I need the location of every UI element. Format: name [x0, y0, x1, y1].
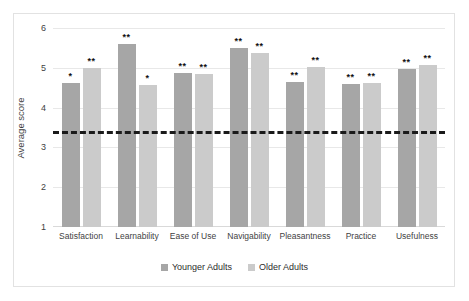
y-axis-tick-label: 6: [41, 24, 46, 33]
x-axis-tick-label: Navigability: [227, 231, 270, 241]
bar-group: ****: [333, 28, 389, 227]
significance-marker: **: [367, 72, 375, 81]
bar[interactable]: [174, 73, 192, 227]
y-axis-tick-label: 1: [41, 223, 46, 232]
bar-younger[interactable]: *: [62, 28, 80, 227]
legend-item[interactable]: Younger Adults: [161, 262, 232, 272]
significance-marker: **: [178, 62, 186, 71]
x-axis-labels: SatisfactionLearnabilityEase of UseNavig…: [53, 231, 445, 249]
bar-group: ***: [53, 28, 109, 227]
bar[interactable]: [419, 65, 437, 227]
y-axis-tick-label: 5: [41, 63, 46, 72]
y-axis-title: Average score: [15, 97, 26, 158]
bar-older[interactable]: **: [419, 28, 437, 227]
legend-label: Younger Adults: [172, 262, 232, 272]
significance-marker: *: [145, 74, 149, 83]
bar[interactable]: [342, 84, 360, 227]
bar-younger[interactable]: **: [398, 28, 416, 227]
significance-marker: **: [423, 54, 431, 63]
significance-marker: **: [346, 73, 354, 82]
bar-older[interactable]: **: [83, 28, 101, 227]
bar-younger[interactable]: **: [230, 28, 248, 227]
bar-younger[interactable]: **: [286, 28, 304, 227]
reference-threshold-line: [53, 131, 445, 134]
bar[interactable]: [398, 69, 416, 227]
bar-group: ****: [389, 28, 445, 227]
significance-marker: **: [290, 71, 298, 80]
bar-older[interactable]: **: [195, 28, 213, 227]
bar[interactable]: [118, 44, 136, 227]
chart-legend: Younger AdultsOlder Adults: [0, 262, 469, 272]
bar-group: ****: [165, 28, 221, 227]
bar-younger[interactable]: **: [174, 28, 192, 227]
legend-swatch-icon: [161, 264, 168, 271]
bar[interactable]: [195, 74, 213, 227]
x-axis-tick-label: Satisfaction: [59, 231, 103, 241]
legend-label: Older Adults: [259, 262, 308, 272]
significance-marker: **: [199, 63, 207, 72]
significance-marker: **: [234, 37, 242, 46]
x-axis-tick-label: Usefulness: [396, 231, 438, 241]
significance-marker: **: [402, 58, 410, 67]
significance-marker: **: [87, 57, 95, 66]
bar-older[interactable]: **: [251, 28, 269, 227]
significance-marker: *: [68, 72, 72, 81]
bar[interactable]: [62, 83, 80, 227]
bar-younger[interactable]: **: [118, 28, 136, 227]
bar-group: ****: [277, 28, 333, 227]
x-axis-tick-label: Ease of Use: [170, 231, 216, 241]
bar-older[interactable]: **: [307, 28, 325, 227]
bar-group: ***: [109, 28, 165, 227]
legend-item[interactable]: Older Adults: [248, 262, 308, 272]
bar[interactable]: [230, 48, 248, 227]
bar[interactable]: [307, 67, 325, 227]
bar-chart: Average score 123456********************…: [0, 0, 469, 301]
bar-older[interactable]: *: [139, 28, 157, 227]
bar[interactable]: [286, 82, 304, 227]
bar-younger[interactable]: **: [342, 28, 360, 227]
y-axis-tick-label: 2: [41, 183, 46, 192]
bar[interactable]: [83, 68, 101, 227]
significance-marker: **: [311, 56, 319, 65]
bars-layer: **************************: [53, 28, 445, 227]
plot-area: 123456**************************: [53, 28, 445, 227]
bar[interactable]: [363, 83, 381, 227]
bar[interactable]: [139, 85, 157, 227]
x-axis-tick-label: Learnability: [115, 231, 158, 241]
y-axis-tick-label: 3: [41, 143, 46, 152]
x-axis-tick-label: Pleasantness: [279, 231, 330, 241]
x-axis-tick-label: Practice: [346, 231, 377, 241]
y-axis-tick-label: 4: [41, 103, 46, 112]
bar[interactable]: [251, 53, 269, 227]
bar-group: ****: [221, 28, 277, 227]
significance-marker: **: [255, 42, 263, 51]
legend-swatch-icon: [248, 264, 255, 271]
significance-marker: **: [122, 33, 130, 42]
bar-older[interactable]: **: [363, 28, 381, 227]
